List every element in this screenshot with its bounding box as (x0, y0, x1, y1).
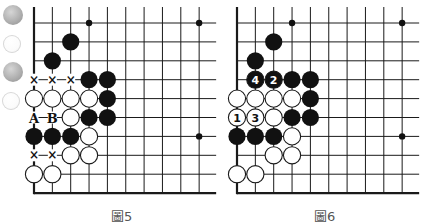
black-stone (99, 109, 116, 126)
black-stone (265, 33, 282, 50)
white-stone (80, 147, 97, 164)
white-stone (62, 147, 79, 164)
black-stone (44, 128, 61, 145)
white-stone (265, 90, 282, 107)
move-number: 1 (233, 112, 241, 125)
move-number: 3 (252, 112, 260, 125)
fig6-board: 2413 (228, 7, 419, 194)
x-mark: × (29, 148, 39, 162)
white-stone (283, 90, 300, 107)
black-stone (25, 128, 42, 145)
x-mark: × (47, 148, 57, 162)
black-stone (62, 128, 79, 145)
black-stone (265, 128, 282, 145)
white-stone (62, 109, 79, 126)
move-number: 4 (252, 74, 260, 87)
black-stone (302, 71, 319, 88)
white-stone (80, 90, 97, 107)
white-stone (265, 109, 282, 126)
star-point-icon (289, 20, 295, 26)
white-stone (62, 90, 79, 107)
white-stone (283, 128, 300, 145)
black-stone (302, 109, 319, 126)
figure-6-caption: 圖6 (314, 206, 335, 222)
black-stone (80, 109, 97, 126)
white-stone (228, 166, 245, 183)
white-stone (44, 90, 61, 107)
gray-stone-icon (3, 5, 23, 25)
star-point-icon (196, 20, 202, 26)
black-stone (99, 71, 116, 88)
black-stone (62, 33, 79, 50)
move-number: 2 (270, 74, 278, 87)
go-boards: ×××AB××2413 (0, 0, 422, 222)
white-stone-icon (3, 35, 21, 53)
white-stone-icon (2, 92, 20, 110)
letter-mark: B (47, 111, 58, 126)
white-stone (44, 166, 61, 183)
white-stone (25, 166, 42, 183)
white-stone (247, 166, 264, 183)
black-stone (228, 128, 245, 145)
black-stone (302, 90, 319, 107)
white-stone (25, 90, 42, 107)
black-stone (283, 71, 300, 88)
black-stone (80, 71, 97, 88)
white-stone (247, 90, 264, 107)
x-mark: × (47, 73, 57, 87)
black-stone (247, 52, 264, 69)
white-stone (228, 90, 245, 107)
figure-5-caption: 圖5 (111, 206, 132, 222)
fig5-board: ×××AB×× (25, 7, 216, 194)
x-mark: × (66, 73, 76, 87)
white-stone (80, 128, 97, 145)
star-point-icon (399, 20, 405, 26)
letter-mark: A (28, 111, 40, 126)
x-mark: × (29, 73, 39, 87)
gray-stone-icon (3, 62, 23, 82)
star-point-icon (86, 20, 92, 26)
black-stone (247, 128, 264, 145)
go-diagram-page: ×××AB××2413 圖5 圖6 (0, 0, 422, 222)
star-point-icon (399, 133, 405, 139)
white-stone (283, 147, 300, 164)
black-stone (44, 52, 61, 69)
star-point-icon (196, 133, 202, 139)
black-stone (283, 109, 300, 126)
white-stone (265, 147, 282, 164)
black-stone (99, 90, 116, 107)
